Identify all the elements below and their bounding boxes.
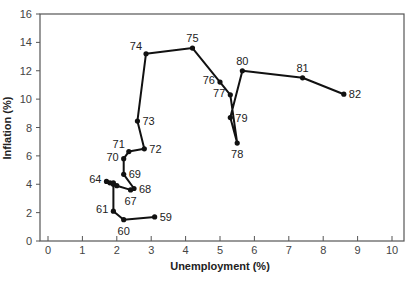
point-label: 64 — [89, 173, 101, 185]
data-point — [228, 115, 233, 120]
point-label: 76 — [203, 74, 215, 86]
phillips-curve-chart: 0246810121416 012345678910 5960616467686… — [0, 0, 415, 281]
x-tick-label: 8 — [320, 244, 326, 256]
x-tick-label: 7 — [286, 244, 292, 256]
plot-frame — [40, 14, 404, 241]
x-tick-label: 5 — [217, 244, 223, 256]
y-tick-label: 12 — [20, 65, 32, 77]
x-tick-label: 6 — [251, 244, 257, 256]
x-tick-label: 0 — [45, 244, 51, 256]
y-tick-label: 2 — [26, 207, 32, 219]
data-point — [114, 183, 119, 188]
point-label: 79 — [235, 112, 247, 124]
x-tick-label: 2 — [114, 244, 120, 256]
x-axis: 012345678910 — [45, 236, 398, 256]
y-tick-label: 14 — [20, 36, 32, 48]
x-tick-label: 10 — [386, 244, 398, 256]
y-tick-label: 8 — [26, 122, 32, 134]
point-label: 78 — [231, 148, 243, 160]
point-label: 80 — [236, 55, 248, 67]
point-label: 74 — [130, 40, 142, 52]
plot-border — [40, 14, 404, 241]
point-label: 68 — [139, 183, 151, 195]
point-label: 67 — [124, 195, 136, 207]
data-point — [111, 209, 116, 214]
x-tick-label: 9 — [355, 244, 361, 256]
point-label: 75 — [186, 32, 198, 44]
data-point — [104, 179, 109, 184]
y-axis: 0246810121416 — [20, 8, 40, 247]
point-label: 73 — [142, 115, 154, 127]
data-point — [121, 156, 126, 161]
point-label: 69 — [129, 168, 141, 180]
point-label: 72 — [149, 143, 161, 155]
data-point — [121, 172, 126, 177]
x-tick-label: 1 — [79, 244, 85, 256]
data-series — [104, 45, 347, 222]
data-point — [228, 92, 233, 97]
data-point — [131, 186, 136, 191]
x-tick-label: 4 — [183, 244, 189, 256]
point-label: 59 — [160, 211, 172, 223]
point-label: 70 — [106, 151, 118, 163]
x-axis-title: Unemployment (%) — [170, 260, 270, 272]
data-point — [235, 141, 240, 146]
point-label: 60 — [118, 225, 130, 237]
data-point — [121, 217, 126, 222]
point-label: 77 — [213, 87, 225, 99]
point-label: 81 — [296, 62, 308, 74]
point-label: 82 — [349, 88, 361, 100]
data-point — [190, 45, 195, 50]
data-point — [217, 80, 222, 85]
y-tick-label: 16 — [20, 8, 32, 20]
data-point — [341, 92, 346, 97]
point-label: 61 — [96, 203, 108, 215]
point-label: 71 — [113, 138, 125, 150]
x-tick-label: 3 — [148, 244, 154, 256]
y-tick-label: 6 — [26, 150, 32, 162]
y-axis-title: Inflation (%) — [1, 96, 13, 159]
y-tick-label: 0 — [26, 235, 32, 247]
point-labels: 5960616467686970717273747576777879808182 — [89, 32, 361, 237]
data-point — [240, 68, 245, 73]
data-point — [126, 149, 131, 154]
data-point — [143, 51, 148, 56]
data-point — [152, 214, 157, 219]
y-tick-label: 10 — [20, 93, 32, 105]
data-point — [300, 75, 305, 80]
data-point — [135, 119, 140, 124]
data-point — [142, 146, 147, 151]
y-tick-label: 4 — [26, 178, 32, 190]
